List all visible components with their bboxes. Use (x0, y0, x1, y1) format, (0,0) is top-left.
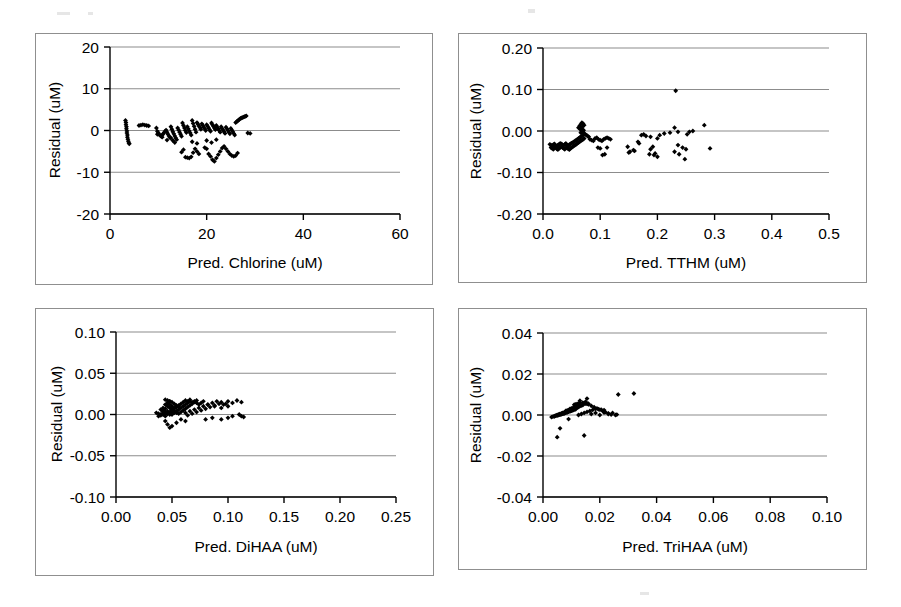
data-point (676, 143, 681, 148)
data-point (195, 141, 200, 146)
data-point (616, 392, 621, 397)
data-point (690, 129, 695, 134)
y-tick-label: 0.00 (502, 123, 533, 140)
y-tick-label: 0.04 (502, 325, 533, 342)
panel-chlorine: -20-10010200204060Pred. Chlorine (uM)Res… (35, 33, 433, 285)
x-tick-label: 0.25 (381, 508, 411, 525)
panel-tthm: -0.20-0.100.000.100.200.00.10.20.30.40.5… (458, 33, 867, 283)
x-tick-label: 0.04 (642, 508, 673, 525)
scan-artifact (57, 12, 70, 15)
y-tick-label: 0.00 (75, 406, 106, 423)
data-point (672, 149, 677, 154)
residual-plot-figure: -20-10010200204060Pred. Chlorine (uM)Res… (0, 0, 901, 607)
x-tick-label: 60 (391, 225, 409, 242)
data-point (203, 417, 208, 422)
x-tick-label: 0.4 (761, 225, 783, 242)
data-point (230, 401, 235, 406)
y-axis-title: Residual (uM) (46, 82, 63, 178)
x-axis-title: Pred. DiHAA (uM) (194, 538, 317, 555)
data-point (672, 125, 677, 130)
y-tick-label: -0.04 (497, 489, 533, 506)
scatter-series (154, 397, 246, 430)
y-tick-label: 0.10 (75, 324, 106, 341)
data-point (219, 417, 224, 422)
x-tick-label: 0.2 (647, 225, 669, 242)
data-point (702, 123, 707, 128)
panel-trihaa: -0.04-0.020.000.020.040.000.020.040.060.… (458, 308, 867, 570)
scan-artifact (640, 592, 649, 595)
panel-tthm-svg: -0.20-0.100.000.100.200.00.10.20.30.40.5… (459, 34, 866, 281)
data-point (647, 152, 652, 157)
x-tick-label: 0.0 (532, 225, 554, 242)
data-point (209, 140, 214, 145)
x-axis-title: Pred. TriHAA (uM) (622, 538, 748, 555)
data-point (174, 420, 179, 425)
x-axis-title: Pred. TTHM (uM) (626, 254, 746, 271)
y-tick-label: -20 (77, 206, 100, 223)
y-axis-title: Residual (uM) (467, 367, 484, 463)
data-point (183, 419, 188, 424)
x-tick-label: 0.5 (818, 225, 840, 242)
panel-chlorine-svg: -20-10010200204060Pred. Chlorine (uM)Res… (36, 34, 432, 283)
x-tick-label: 0.10 (213, 508, 244, 525)
x-tick-label: 0.3 (704, 225, 726, 242)
x-axis-title: Pred. Chlorine (uM) (187, 254, 322, 271)
y-tick-label: -0.10 (497, 164, 533, 181)
y-tick-label: 0.20 (502, 40, 533, 57)
x-tick-label: 0.20 (325, 508, 356, 525)
x-tick-label: 0.05 (157, 508, 187, 525)
y-tick-label: -0.20 (497, 206, 533, 223)
data-point (239, 400, 244, 405)
data-point (676, 129, 681, 134)
scatter-series (547, 88, 712, 161)
scan-artifact (528, 9, 535, 13)
data-point (235, 398, 240, 403)
y-axis-title: Residual (uM) (48, 366, 65, 462)
data-point (555, 435, 560, 440)
y-tick-label: -0.10 (70, 489, 106, 506)
y-tick-label: -0.02 (497, 448, 532, 465)
y-tick-label: 0.10 (502, 81, 533, 98)
x-tick-label: 0.10 (812, 508, 843, 525)
data-point (605, 145, 610, 150)
x-tick-label: 0.1 (589, 225, 611, 242)
data-point (582, 433, 587, 438)
y-tick-label: 0.02 (502, 366, 532, 383)
y-tick-label: 20 (82, 39, 100, 56)
data-point (179, 417, 184, 422)
panel-dihaa: -0.10-0.050.000.050.100.000.050.100.150.… (35, 308, 434, 576)
x-tick-label: 40 (295, 225, 313, 242)
data-point (625, 144, 630, 149)
data-point (558, 426, 563, 431)
data-point (214, 137, 219, 142)
y-tick-label: -10 (77, 164, 100, 181)
data-point (682, 157, 687, 162)
y-axis-title: Residual (uM) (467, 83, 484, 179)
x-tick-label: 0.08 (755, 508, 785, 525)
data-point (662, 131, 667, 136)
data-point (708, 146, 713, 151)
panel-trihaa-svg: -0.04-0.020.000.020.040.000.020.040.060.… (459, 309, 866, 568)
data-point (226, 415, 231, 420)
data-point (631, 391, 636, 396)
x-tick-label: 20 (198, 225, 216, 242)
data-point (566, 417, 571, 422)
y-tick-label: 0.05 (75, 365, 105, 382)
scan-artifact (88, 12, 93, 15)
data-point (648, 134, 653, 139)
x-tick-label: 0.02 (585, 508, 615, 525)
x-tick-label: 0 (106, 225, 115, 242)
scatter-series (123, 113, 253, 163)
data-point (210, 415, 215, 420)
data-point (204, 138, 209, 143)
y-tick-label: 0.00 (502, 407, 533, 424)
data-point (597, 413, 602, 418)
data-point (677, 152, 682, 157)
y-tick-label: -0.05 (70, 447, 105, 464)
x-tick-label: 0.00 (528, 508, 559, 525)
panel-dihaa-svg: -0.10-0.050.000.050.100.000.050.100.150.… (36, 309, 433, 574)
data-point (190, 139, 195, 144)
y-tick-label: 0 (90, 122, 99, 139)
x-tick-label: 0.06 (698, 508, 728, 525)
x-tick-label: 0.00 (101, 508, 132, 525)
